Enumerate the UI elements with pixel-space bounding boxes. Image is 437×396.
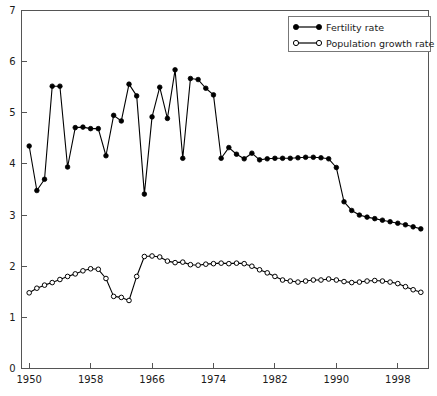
- data-point: [42, 177, 47, 182]
- filled-circle-icon: [316, 24, 321, 29]
- data-point: [58, 84, 63, 89]
- data-point: [88, 266, 93, 271]
- y-tick-label: 7: [9, 5, 15, 16]
- data-point: [296, 280, 301, 285]
- x-tick-label: 1958: [78, 374, 103, 385]
- data-point: [357, 280, 362, 285]
- data-point: [419, 227, 424, 232]
- data-point: [388, 219, 393, 224]
- data-point: [250, 264, 255, 269]
- data-point: [403, 284, 408, 289]
- data-point: [334, 278, 339, 283]
- data-point: [142, 192, 147, 197]
- chart-container: 01234567 1950195819661974198219901998 Fe…: [0, 0, 437, 396]
- data-point: [234, 152, 239, 157]
- data-point: [227, 145, 232, 150]
- open-circle-icon: [293, 40, 298, 45]
- data-point: [165, 259, 170, 264]
- filled-circle-icon: [293, 24, 298, 29]
- data-point: [157, 85, 162, 90]
- y-tick-label: 0: [9, 363, 15, 374]
- data-point: [81, 125, 86, 130]
- data-point: [395, 281, 400, 286]
- data-point: [173, 68, 178, 73]
- data-point: [119, 119, 124, 124]
- data-point: [27, 144, 32, 149]
- data-point: [265, 271, 270, 276]
- chart-background: [0, 0, 437, 396]
- data-point: [419, 290, 424, 295]
- data-point: [96, 267, 101, 272]
- data-point: [65, 165, 70, 170]
- data-point: [280, 278, 285, 283]
- data-point: [127, 298, 132, 303]
- data-point: [357, 213, 362, 218]
- data-point: [372, 216, 377, 221]
- y-tick-label: 3: [9, 210, 15, 221]
- data-point: [288, 279, 293, 284]
- data-point: [403, 222, 408, 227]
- data-point: [165, 116, 170, 121]
- data-point: [288, 156, 293, 161]
- data-point: [188, 76, 193, 81]
- data-point: [96, 126, 101, 131]
- data-point: [88, 126, 93, 131]
- data-point: [50, 84, 55, 89]
- x-tick-label: 1998: [385, 374, 410, 385]
- data-point: [65, 274, 70, 279]
- data-point: [73, 125, 78, 130]
- data-point: [104, 276, 109, 281]
- data-point: [27, 291, 32, 296]
- chart-legend: Fertility ratePopulation growth rate: [289, 17, 435, 52]
- x-tick-label: 1982: [262, 374, 287, 385]
- data-point: [58, 277, 63, 282]
- data-point: [188, 262, 193, 267]
- data-point: [311, 155, 316, 160]
- data-point: [111, 294, 116, 299]
- data-point: [342, 279, 347, 284]
- legend-entry-label: Population growth rate: [326, 38, 434, 49]
- data-point: [196, 77, 201, 82]
- x-tick-label: 1950: [16, 374, 41, 385]
- data-point: [219, 261, 224, 266]
- data-point: [388, 280, 393, 285]
- data-point: [119, 295, 124, 300]
- data-point: [303, 155, 308, 160]
- data-point: [180, 156, 185, 161]
- data-point: [334, 165, 339, 170]
- data-point: [242, 261, 247, 266]
- data-point: [365, 215, 370, 220]
- data-point: [42, 283, 47, 288]
- data-point: [104, 153, 109, 158]
- data-point: [242, 157, 247, 162]
- data-point: [250, 151, 255, 156]
- data-point: [257, 158, 262, 163]
- data-point: [273, 274, 278, 279]
- data-point: [342, 199, 347, 204]
- data-point: [365, 279, 370, 284]
- data-point: [204, 262, 209, 267]
- data-point: [204, 86, 209, 91]
- data-point: [380, 218, 385, 223]
- data-point: [296, 155, 301, 160]
- data-point: [150, 115, 155, 120]
- data-point: [319, 155, 324, 160]
- data-point: [150, 254, 155, 259]
- data-point: [280, 156, 285, 161]
- line-chart: 01234567 1950195819661974198219901998 Fe…: [0, 0, 437, 396]
- y-tick-label: 2: [9, 261, 15, 272]
- data-point: [142, 254, 147, 259]
- data-point: [227, 261, 232, 266]
- data-point: [196, 263, 201, 268]
- data-point: [134, 274, 139, 279]
- data-point: [134, 94, 139, 99]
- x-tick-label: 1974: [201, 374, 226, 385]
- data-point: [303, 279, 308, 284]
- data-point: [173, 260, 178, 265]
- data-point: [349, 280, 354, 285]
- data-point: [35, 286, 40, 291]
- legend-entry-label: Fertility rate: [326, 22, 384, 33]
- data-point: [380, 279, 385, 284]
- data-point: [395, 221, 400, 226]
- data-point: [326, 157, 331, 162]
